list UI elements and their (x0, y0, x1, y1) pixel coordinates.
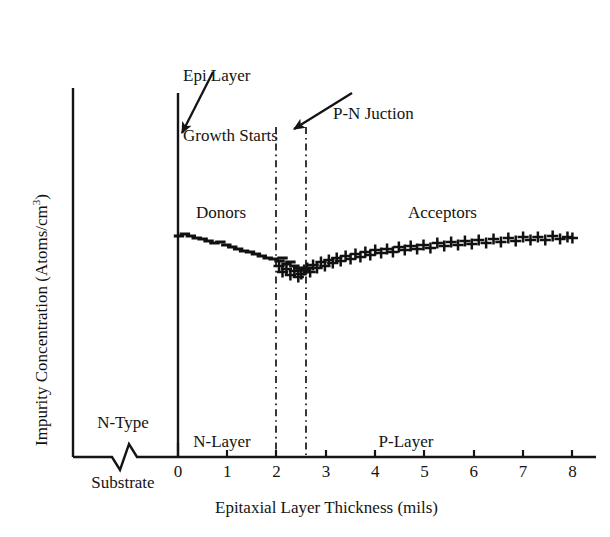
data-point-acceptors (323, 254, 334, 265)
data-point-acceptors (532, 231, 543, 242)
data-point-acceptors (432, 237, 443, 248)
data-point-acceptors (345, 253, 356, 264)
data-point-acceptors (452, 239, 463, 250)
data-point-acceptors (393, 241, 404, 252)
x-axis-label: Epitaxial Layer Thickness (mils) (215, 498, 438, 518)
data-point-acceptors (510, 235, 521, 246)
data-point-acceptors (376, 247, 387, 258)
y-axis-label-close: ) (32, 194, 51, 200)
data-point-acceptors (554, 233, 565, 244)
data-point-acceptors (495, 236, 506, 247)
annotation-epi-line1: Epi Layer (183, 66, 278, 86)
data-point-acceptors (547, 230, 558, 241)
x-tick-label-2: 2 (257, 462, 297, 482)
region-label-substrate-line2: Substrate (77, 473, 169, 493)
data-point-acceptors (412, 243, 423, 254)
x-tick-label-4: 4 (355, 462, 395, 482)
y-axis-label-main: Impurity Concentration (Atoms/cm (32, 205, 51, 446)
data-point-acceptors (327, 257, 338, 268)
data-point-acceptors (331, 252, 342, 263)
data-point-acceptors (525, 234, 536, 245)
data-point-acceptors (315, 256, 326, 267)
series-donors-markers (174, 234, 307, 270)
y-axis-label-exponent: 3 (30, 200, 42, 206)
region-label-n-layer-line1: N-Layer (180, 432, 264, 452)
annotation-pn-junction: P-N Juction (333, 64, 414, 164)
data-point-acceptors (281, 263, 292, 274)
data-point-acceptors (425, 242, 436, 253)
data-point-acceptors (562, 231, 573, 242)
data-point-acceptors (459, 235, 470, 246)
data-point-acceptors (481, 237, 492, 248)
data-point-acceptors (399, 244, 410, 255)
data-point-acceptors (365, 249, 376, 260)
series-label-acceptors: Acceptors (408, 203, 477, 223)
series-acceptors-markers (273, 230, 578, 282)
data-point-acceptors (277, 266, 288, 277)
data-point-acceptors (466, 238, 477, 249)
data-point-acceptors (439, 240, 450, 251)
data-point-acceptors (311, 262, 322, 273)
annotation-epi-growth-start: Epi Layer Growth Starts (183, 26, 278, 186)
x-tick-label-8: 8 (552, 462, 592, 482)
y-axis-label: Impurity Concentration (Atoms/cm3) (30, 194, 52, 446)
data-point-acceptors (299, 264, 310, 275)
data-point-acceptors (488, 233, 499, 244)
data-point-acceptors (335, 255, 346, 266)
data-point-acceptors (289, 265, 300, 276)
data-point-acceptors (293, 271, 304, 282)
x-tick-label-0: 0 (158, 462, 198, 482)
data-point-acceptors (370, 244, 381, 255)
data-point-acceptors (305, 266, 316, 277)
annotation-epi-line2: Growth Starts (183, 126, 278, 146)
data-point-acceptors (360, 246, 371, 257)
data-point-acceptors (340, 250, 351, 261)
series-label-donors: Donors (196, 203, 246, 223)
region-label-p-layer-line1: P-Layer (364, 432, 448, 452)
data-point-acceptors (567, 232, 578, 243)
data-point-acceptors (319, 260, 330, 271)
x-tick-label-1: 1 (207, 462, 247, 482)
data-point-acceptors (307, 259, 318, 270)
data-point-acceptors (355, 251, 366, 262)
data-point-acceptors (381, 243, 392, 254)
data-point-acceptors (273, 260, 284, 271)
region-label-substrate-line1: N-Type (77, 413, 169, 433)
annotation-pn-line1: P-N Juction (333, 104, 414, 124)
x-tick-label-5: 5 (405, 462, 445, 482)
x-tick-label-7: 7 (503, 462, 543, 482)
data-point-acceptors (350, 248, 361, 259)
chart-figure: Impurity Concentration (Atoms/cm3) Epita… (0, 0, 610, 537)
data-point-acceptors (418, 239, 429, 250)
region-label-n-type-substrate: N-Type Substrate (77, 373, 169, 533)
data-point-acceptors (503, 232, 514, 243)
data-point-acceptors (387, 246, 398, 257)
x-tick-label-3: 3 (306, 462, 346, 482)
x-tick-label-6: 6 (454, 462, 494, 482)
data-point-acceptors (518, 231, 529, 242)
data-point-acceptors (540, 234, 551, 245)
data-point-acceptors (302, 262, 313, 273)
data-point-acceptors (446, 236, 457, 247)
data-point-acceptors (473, 234, 484, 245)
data-point-acceptors (296, 268, 307, 279)
data-point-acceptors (285, 269, 296, 280)
data-point-acceptors (405, 240, 416, 251)
